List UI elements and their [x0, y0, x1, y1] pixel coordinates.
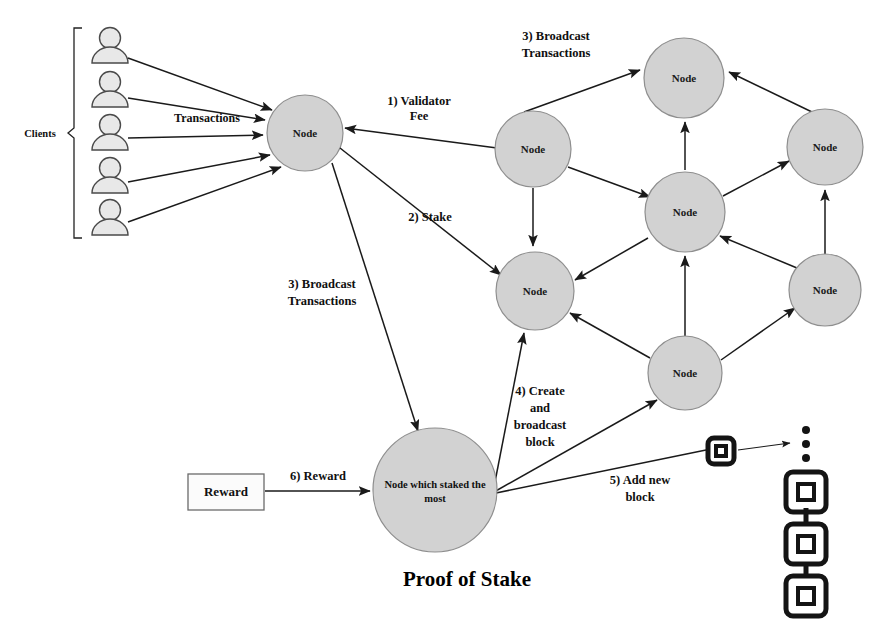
- node-net-top-label: Node: [672, 72, 697, 84]
- broadcast-right-label-line1: 3) Broadcast: [522, 29, 590, 43]
- create-block-label-line4: block: [525, 435, 554, 449]
- edge-client3-to-node: [128, 135, 263, 138]
- edge-netbottom-to-netleftbottom: [570, 313, 650, 358]
- edge-netbottom-to-netrightbottom: [721, 308, 795, 360]
- node-net-top: Node: [644, 38, 724, 118]
- node-net-left-bottom-label: Node: [523, 285, 548, 297]
- add-block-label-line1: 5) Add new: [610, 473, 670, 487]
- edge-netlefttop-to-netcenter: [568, 167, 650, 197]
- node-entry-label: Node: [293, 127, 318, 139]
- edge-newblock-to-chain: [738, 443, 790, 450]
- node-net-left-top-label: Node: [521, 143, 546, 155]
- chain-block-3: [786, 576, 826, 616]
- validator-fee-label-line1: 1) Validator: [387, 94, 451, 108]
- broadcast-left-label-line1: 3) Broadcast: [288, 277, 356, 291]
- edge-create-broadcast-block: [494, 333, 524, 487]
- node-staker-label-line1: Node which staked the: [384, 479, 486, 490]
- diagram-canvas: Clients Transactions: [0, 0, 892, 629]
- clients-label: Clients: [24, 128, 56, 139]
- chain-block-1: [786, 472, 826, 512]
- reward-box-label: Reward: [204, 484, 249, 499]
- validator-fee-label-line2: Fee: [410, 109, 429, 123]
- node-net-bottom-label: Node: [673, 367, 698, 379]
- client-icon-3: [92, 115, 128, 151]
- create-block-label-line1: 4) Create: [515, 384, 565, 398]
- node-net-left-bottom: Node: [496, 252, 574, 330]
- node-staker: Node which staked the most: [373, 428, 497, 552]
- new-block-icon: [708, 438, 734, 464]
- node-net-right-bottom-label: Node: [813, 284, 838, 296]
- blockchain-stack: [786, 472, 826, 616]
- stake-label: 2) Stake: [408, 210, 452, 224]
- chain-block-2: [786, 524, 826, 564]
- client-icon-4: [92, 158, 128, 194]
- broadcast-left-label-line2: Transactions: [288, 294, 357, 308]
- edge-netrighttop-to-nettop: [729, 72, 812, 112]
- client-icon-1: [92, 28, 128, 64]
- create-block-label-line2: and: [530, 401, 550, 415]
- edge-netcenter-to-netleftbottom: [575, 238, 648, 280]
- node-net-center: Node: [645, 172, 725, 252]
- edge-netrightbottom-to-netcenter: [720, 236, 797, 268]
- broadcast-right-label-line2: Transactions: [522, 46, 591, 60]
- edge-client5-to-node: [128, 167, 281, 222]
- node-staker-label-line2: most: [424, 493, 446, 504]
- reward-box: Reward: [188, 474, 264, 510]
- transactions-label: Transactions: [174, 111, 240, 125]
- node-net-bottom: Node: [648, 336, 722, 410]
- clients-bracket: [68, 28, 82, 238]
- node-net-left-top: Node: [495, 111, 571, 187]
- node-net-right-bottom: Node: [789, 254, 861, 326]
- edge-netlefttop-to-nettop: [524, 70, 640, 112]
- client-icon-5: [92, 200, 128, 236]
- create-block-label-line3: broadcast: [514, 418, 567, 432]
- edge-netcenter-to-netrighttop: [723, 161, 789, 196]
- reward-step-label: 6) Reward: [290, 469, 346, 483]
- node-entry: Node: [267, 95, 343, 171]
- node-net-right-top: Node: [787, 109, 863, 185]
- node-net-right-top-label: Node: [813, 141, 838, 153]
- client-icon-2: [92, 72, 128, 108]
- edge-validator-fee: [345, 128, 497, 148]
- chain-ellipsis-dots: [802, 426, 810, 462]
- edge-add-new-block: [496, 450, 706, 493]
- page-title: Proof of Stake: [403, 567, 531, 591]
- proof-of-stake-diagram: Clients Transactions: [0, 0, 892, 629]
- node-net-center-label: Node: [673, 206, 698, 218]
- add-block-label-line2: block: [625, 490, 654, 504]
